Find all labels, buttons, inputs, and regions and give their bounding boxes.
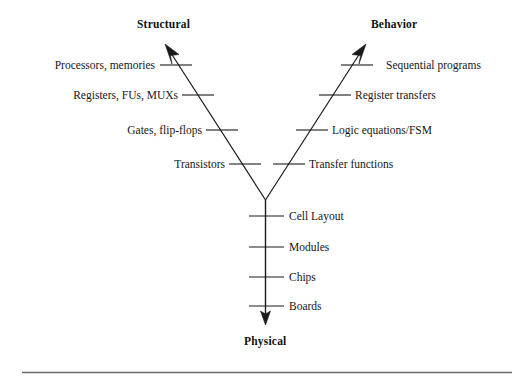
structural-arrowhead [165, 44, 179, 64]
behavior-level-label-transfer-functions: Transfer functions [309, 158, 393, 170]
physical-arrowhead [261, 311, 271, 325]
behavior-arrowhead [352, 44, 366, 64]
physical-level-label-boards: Boards [289, 300, 322, 312]
y-chart-diagram: Structural Behavior Physical Processors,… [0, 0, 519, 384]
physical-level-label-cell-layout: Cell Layout [289, 210, 344, 222]
behavior-axis-group [266, 44, 374, 200]
physical-axis-group [249, 200, 284, 325]
behavior-level-label-logic-equations-fsm: Logic equations/FSM [332, 124, 432, 136]
structural-axis-title: Structural [137, 18, 190, 30]
structural-axis-group [160, 44, 266, 200]
diagram-vector-layer [0, 0, 519, 384]
structural-level-label-transistors: Transistors [0, 158, 225, 170]
physical-level-label-chips: Chips [289, 271, 316, 283]
behavior-level-label-register-transfers: Register transfers [355, 89, 436, 101]
physical-level-label-modules: Modules [289, 241, 329, 253]
behavior-axis-title: Behavior [371, 18, 417, 30]
behavior-level-label-sequential-programs: Sequential programs [386, 59, 481, 71]
physical-axis-title: Physical [244, 335, 287, 347]
structural-level-label-registers-fus-muxs: Registers, FUs, MUXs [0, 89, 178, 101]
structural-level-label-processors-memories: Processors, memories [0, 59, 155, 71]
structural-level-label-gates-flip-flops: Gates, flip-flops [0, 124, 202, 136]
